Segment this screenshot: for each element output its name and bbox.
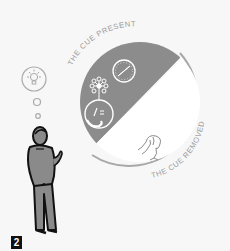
cue-circle	[70, 30, 220, 180]
figure-number-badge: 2	[11, 236, 22, 249]
cue-diagram: THE CUE PRESENT THE CUE REMOVED	[0, 0, 230, 251]
person-thinking-icon	[28, 127, 62, 233]
thought-bubbles	[22, 67, 46, 118]
